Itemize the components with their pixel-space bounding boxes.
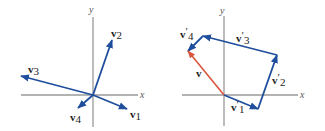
left-diagram: y x v1 v2 v3 v4 bbox=[21, 4, 145, 127]
x-axis-label: x bbox=[139, 89, 145, 100]
label-v1: v1 bbox=[130, 108, 141, 122]
label-v-resultant: v bbox=[196, 67, 202, 79]
label-v4: v4 bbox=[70, 111, 82, 125]
vector-v1 bbox=[93, 95, 127, 109]
label-v3-prime: v′3 bbox=[236, 29, 250, 46]
vector-v-resultant bbox=[188, 51, 224, 95]
vector-v3 bbox=[21, 76, 93, 95]
vector-v2 bbox=[93, 40, 112, 95]
vector-v4 bbox=[78, 95, 93, 108]
y-axis-label: y bbox=[219, 5, 225, 16]
label-v2-prime: v′2 bbox=[272, 71, 285, 88]
right-diagram: y x v′1 v′2 v′3 v′4 v bbox=[180, 5, 305, 126]
label-v2: v2 bbox=[111, 27, 122, 41]
label-v4-prime: v′4 bbox=[180, 25, 194, 42]
vector-diagrams: y x v1 v2 v3 v4 y x v′1 v′2 v′3 v′4 v bbox=[0, 0, 325, 131]
label-v1-prime: v′1 bbox=[231, 98, 244, 115]
y-axis-label: y bbox=[88, 4, 94, 15]
label-v3: v3 bbox=[28, 63, 40, 77]
x-axis-label: x bbox=[299, 89, 305, 100]
